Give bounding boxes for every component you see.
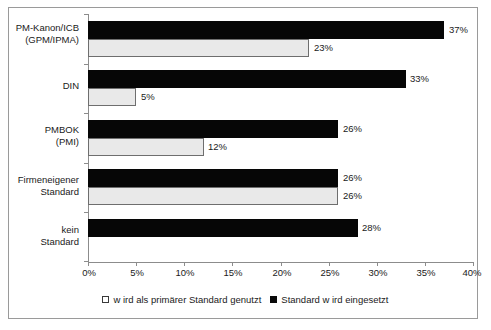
category-tick xyxy=(84,163,88,164)
category-tick xyxy=(84,14,88,15)
bar-value-label: 37% xyxy=(449,25,468,35)
category-tick xyxy=(84,64,88,65)
category-label-pmbok: PMBOK (PMI) xyxy=(0,124,79,148)
legend-label: w ird als primärer Standard genutzt xyxy=(113,294,261,305)
x-axis-tick-label: 25% xyxy=(320,268,339,278)
bar-dark xyxy=(88,219,358,237)
category-tick xyxy=(84,113,88,114)
x-axis-tick-label: 5% xyxy=(130,268,144,278)
x-axis-tick xyxy=(425,262,426,266)
legend-swatch-light-icon xyxy=(102,296,109,303)
x-axis-tick xyxy=(184,262,185,266)
x-axis-tick-label: 40% xyxy=(462,268,481,278)
bar-value-label: 26% xyxy=(343,124,362,134)
x-axis-tick-label: 0% xyxy=(82,268,96,278)
category-label-line: Standard xyxy=(0,236,79,248)
bar-dark xyxy=(88,169,338,187)
category-label-line: kein xyxy=(0,224,79,236)
x-axis-tick xyxy=(232,262,233,266)
category-label-line: Standard xyxy=(0,186,79,198)
legend-label: Standard w ird eingesetzt xyxy=(281,294,388,305)
chart-figure: PM-Kanon/ICB (GPM/IPMA) DIN PMBOK (PMI) … xyxy=(0,0,491,330)
bar-dark xyxy=(88,120,338,138)
bar-light xyxy=(88,138,204,156)
bar-dark xyxy=(88,70,406,88)
bar-value-label: 33% xyxy=(410,74,429,84)
legend-item-primary-standard: w ird als primärer Standard genutzt xyxy=(102,294,261,305)
x-axis-tick-label: 10% xyxy=(175,268,194,278)
x-axis-tick xyxy=(136,262,137,266)
category-label-kein-standard: kein Standard xyxy=(0,224,79,248)
bar-light xyxy=(88,39,309,57)
bar-dark xyxy=(88,21,444,39)
category-label-line: (PMI) xyxy=(0,136,79,148)
bar-value-label: 23% xyxy=(314,43,333,53)
category-label-line: Firmeneigener xyxy=(0,174,79,186)
category-label-line: (GPM/IPMA) xyxy=(0,34,79,46)
bar-value-label: 5% xyxy=(141,92,155,102)
x-axis-tick xyxy=(377,262,378,266)
chart-legend: w ird als primärer Standard genutzt Stan… xyxy=(0,294,491,305)
x-axis-tick-label: 20% xyxy=(272,268,291,278)
x-axis-tick-label: 30% xyxy=(368,268,387,278)
legend-swatch-dark-icon xyxy=(270,296,277,303)
category-label-firmeneigener-standard: Firmeneigener Standard xyxy=(0,174,79,198)
category-label-pm-kanon-icb: PM-Kanon/ICB (GPM/IPMA) xyxy=(0,22,79,46)
bar-light xyxy=(88,187,338,205)
bar-light xyxy=(88,88,136,106)
x-axis-tick-label: 35% xyxy=(416,268,435,278)
bar-value-label: 26% xyxy=(343,173,362,183)
plot-area: 37% 23% 33% 5% 26% xyxy=(88,14,473,262)
x-axis-tick xyxy=(88,262,89,266)
category-label-din: DIN xyxy=(0,80,79,92)
x-axis-tick xyxy=(281,262,282,266)
x-axis-tick xyxy=(473,262,474,266)
category-label-line: PM-Kanon/ICB xyxy=(0,22,79,34)
bar-value-label: 28% xyxy=(362,223,381,233)
bar-value-label: 12% xyxy=(208,142,227,152)
x-axis-tick xyxy=(329,262,330,266)
bar-value-label: 26% xyxy=(343,191,362,201)
category-label-line: PMBOK xyxy=(0,124,79,136)
category-label-line: DIN xyxy=(0,80,79,92)
x-axis-tick-label: 15% xyxy=(223,268,242,278)
category-tick xyxy=(84,212,88,213)
legend-item-standard-eingesetzt: Standard w ird eingesetzt xyxy=(270,294,388,305)
